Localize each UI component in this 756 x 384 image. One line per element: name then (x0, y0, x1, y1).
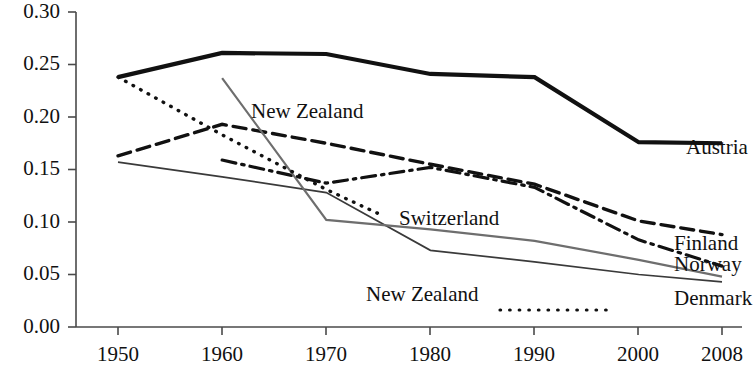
y-tick-label-015: 0.15 (23, 156, 60, 180)
x-tick-marks (118, 327, 722, 335)
series-label-switzerland: Switzerland (399, 206, 500, 230)
y-tick-label-025: 0.25 (23, 51, 60, 75)
y-tick-label-030: 0.30 (23, 0, 60, 23)
y-tick-label-010: 0.10 (23, 209, 60, 233)
x-tick-label-2000: 2000 (617, 342, 659, 366)
series-label-norway: Norway (674, 252, 742, 276)
series-label-austria: Austria (686, 135, 749, 159)
x-tick-label-2008: 2008 (701, 342, 743, 366)
x-tick-label-1970: 1970 (305, 342, 347, 366)
y-tick-label-005: 0.05 (23, 261, 60, 285)
series-label-new-zealand-inline: New Zealand (251, 99, 364, 123)
y-tick-label-000: 0.00 (23, 314, 60, 338)
legend-new-zealand: New Zealand (366, 282, 612, 310)
x-tick-label-1960: 1960 (201, 342, 243, 366)
x-tick-label-1980: 1980 (409, 342, 451, 366)
series-layer (118, 53, 722, 282)
legend-label-new-zealand: New Zealand (366, 282, 479, 306)
y-tick-label-020: 0.20 (23, 104, 60, 128)
x-tick-label-1990: 1990 (513, 342, 555, 366)
series-line-austria (118, 53, 722, 143)
x-tick-label-1950: 1950 (97, 342, 139, 366)
series-label-denmark: Denmark (674, 286, 753, 310)
line-chart: 0.30 0.25 0.20 0.15 0.10 0.05 0.00 1950 … (0, 0, 756, 384)
y-tick-marks (68, 12, 76, 327)
plot-area: 0.30 0.25 0.20 0.15 0.10 0.05 0.00 1950 … (0, 0, 756, 384)
